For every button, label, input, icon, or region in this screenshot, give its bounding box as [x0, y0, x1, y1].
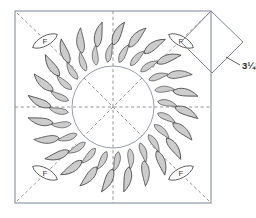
corner-marker-label-top-left: F — [43, 37, 48, 46]
dimension-label: 3¼" — [242, 60, 256, 71]
diagram-canvas: F F F F 3¼" — [0, 0, 256, 218]
quilt-pattern-diagram: F F F F 3¼" — [0, 0, 256, 218]
dimension-leader-line — [226, 57, 240, 65]
corner-marker-label-bottom-right: F — [179, 169, 184, 178]
corner-marker-label-bottom-left: F — [43, 169, 48, 178]
